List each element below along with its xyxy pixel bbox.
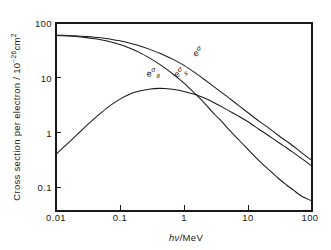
y-axis-title-unit: cm xyxy=(11,37,22,50)
curve-annotations: eσ eσs eσa xyxy=(146,44,205,81)
y-axis-title: Cross section per electron / 10−26cm2 xyxy=(10,33,22,201)
curves-group xyxy=(56,35,312,201)
curve-sigma-total xyxy=(56,35,312,160)
x-axis-title-rest: /MeV xyxy=(180,232,204,243)
y-axis-title-exponent: −26 xyxy=(10,50,17,62)
y-axis-title-unit-exponent: 2 xyxy=(10,33,17,37)
svg-text:Cross section per electron / 1: Cross section per electron / 10−26cm2 xyxy=(10,33,22,201)
y-axis-ticks xyxy=(56,23,312,187)
x-ticklabel-100: 100 xyxy=(301,212,318,223)
plot-frame xyxy=(56,23,312,211)
y-ticklabel-100: 100 xyxy=(35,18,52,29)
x-ticklabel-1: 1 xyxy=(181,212,187,223)
x-ticklabel-0.01: 0.01 xyxy=(46,212,66,223)
x-axis-title: hν/MeV xyxy=(169,232,203,243)
x-axis-tick-labels: 0.01 0.1 1 10 100 xyxy=(46,212,319,223)
y-ticklabel-0.1: 0.1 xyxy=(38,182,52,193)
y-axis-tick-labels: 100 10 1 0.1 xyxy=(35,18,52,193)
annotation-sigma-s: eσs xyxy=(172,63,190,80)
svg-text:hν/MeV: hν/MeV xyxy=(169,232,203,243)
y-axis-title-main: Cross section per electron / 10 xyxy=(11,63,22,201)
x-axis-ticks xyxy=(56,23,312,211)
annotation-sigma-total: eσ xyxy=(191,44,205,59)
chart-figure-root: 100 10 1 0.1 0.01 0.1 1 10 100 hν/MeV xyxy=(0,0,331,250)
y-ticklabel-10: 10 xyxy=(41,73,52,84)
annotation-sigma-a: eσa xyxy=(146,65,161,80)
cross-section-chart: 100 10 1 0.1 0.01 0.1 1 10 100 hν/MeV xyxy=(0,0,331,250)
y-ticklabel-1: 1 xyxy=(46,128,52,139)
curve-sigma-a xyxy=(56,88,312,166)
x-ticklabel-0.1: 0.1 xyxy=(113,212,127,223)
x-ticklabel-10: 10 xyxy=(242,212,253,223)
